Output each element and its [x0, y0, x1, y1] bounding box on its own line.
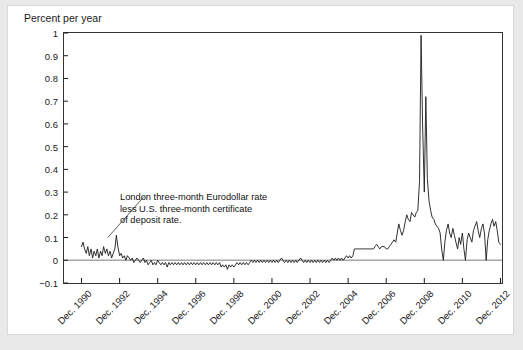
y-tick-label: 0.9: [45, 50, 58, 61]
x-tick-label: Dec. 2002: [283, 288, 321, 326]
y-tick-label: 0.8: [45, 73, 58, 84]
y-tick-label: 0: [53, 255, 58, 266]
y-axis-title: Percent per year: [24, 12, 102, 24]
y-tick-label: 0.1: [45, 232, 58, 243]
chart-annotation: London three-month Eurodollar rate less …: [120, 192, 267, 227]
x-tick-label: Dec. 2000: [245, 288, 283, 326]
x-tick-label: Dec. 1996: [169, 288, 207, 326]
x-axis-labels: Dec. 1990Dec. 1992Dec. 1994Dec. 1996Dec.…: [63, 286, 503, 342]
y-tick-label: 0.3: [45, 187, 58, 198]
x-tick-label: Dec. 1998: [207, 288, 245, 326]
annotation-line-3: of deposit rate.: [120, 215, 267, 227]
x-tick-label: Dec. 2004: [321, 288, 359, 326]
x-tick-label: Dec. 2006: [360, 288, 398, 326]
chart-card: Percent per year 10.90.80.70.60.50.40.30…: [8, 6, 513, 334]
plot-border: [64, 33, 503, 284]
x-tick-label: Dec. 1992: [93, 288, 131, 326]
y-tick-label: −0.1: [39, 278, 58, 289]
plot-area: [63, 32, 503, 284]
y-tick-label: 0.7: [45, 96, 58, 107]
annotation-line-1: London three-month Eurodollar rate: [120, 192, 267, 204]
y-tick-label: 0.4: [45, 164, 58, 175]
x-tick-label: Dec. 2010: [436, 288, 474, 326]
x-tick-label: Dec. 2008: [398, 288, 436, 326]
chart-svg: [63, 32, 503, 284]
y-tick-label: 0.2: [45, 209, 58, 220]
y-tick-label: 1: [53, 28, 58, 39]
y-tick-label: 0.5: [45, 141, 58, 152]
x-tick-label: Dec. 2012: [474, 288, 512, 326]
x-tick-label: Dec. 1994: [131, 288, 169, 326]
annotation-line-2: less U.S. three-month certificate: [120, 204, 267, 216]
y-axis-labels: 10.90.80.70.60.50.40.30.20.10−0.1: [8, 32, 58, 284]
x-tick-label: Dec. 1990: [55, 288, 93, 326]
y-tick-label: 0.6: [45, 118, 58, 129]
